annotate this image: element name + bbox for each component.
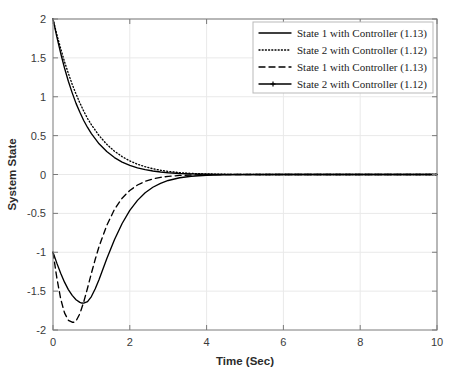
x-tick-label: 2 — [127, 336, 133, 348]
y-tick-label: 1 — [40, 91, 46, 103]
y-tick-label: 2 — [40, 13, 46, 25]
y-tick-label: -1 — [36, 246, 46, 258]
y-tick-label: 0.5 — [31, 130, 46, 142]
series-line-4 — [53, 175, 437, 304]
legend-label: State 1 with Controller (1.13) — [297, 27, 427, 40]
x-tick-label: 4 — [204, 336, 210, 348]
x-tick-label: 0 — [50, 336, 56, 348]
y-tick-label: -1.5 — [27, 285, 46, 297]
legend-label: State 1 with Controller (1.13) — [297, 61, 427, 74]
y-tick-label: -0.5 — [27, 207, 46, 219]
y-tick-label: -2 — [36, 324, 46, 336]
legend-label: State 2 with Controller (1.12) — [297, 78, 427, 91]
y-tick-label: 0 — [40, 169, 46, 181]
x-tick-label: 10 — [431, 336, 443, 348]
legend: State 1 with Controller (1.13)State 2 wi… — [253, 22, 433, 93]
x-axis-title: Time (Sec) — [216, 355, 274, 367]
x-tick-label: 8 — [357, 336, 363, 348]
x-tick-label: 6 — [280, 336, 286, 348]
y-axis-title: System State — [6, 138, 18, 210]
y-tick-label: 1.5 — [31, 52, 46, 64]
system-state-line-chart: 0246810-2-1.5-1-0.500.511.52Time (Sec)Sy… — [0, 0, 462, 380]
legend-label: State 2 with Controller (1.12) — [297, 44, 427, 57]
figure-container: 0246810-2-1.5-1-0.500.511.52Time (Sec)Sy… — [0, 0, 462, 380]
